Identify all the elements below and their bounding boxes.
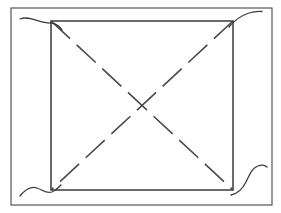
figure-canvas [0,0,281,213]
line-drawing-svg [0,0,281,213]
